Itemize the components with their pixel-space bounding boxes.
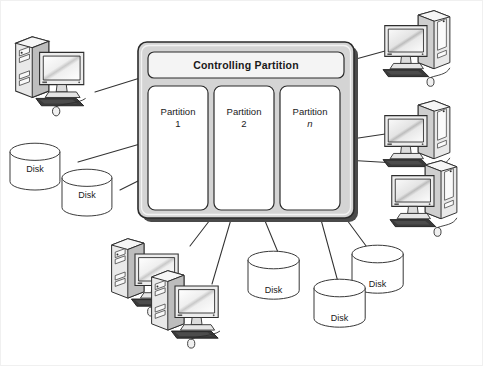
connector-disk-bottom-right-front	[320, 216, 338, 282]
disk-bottom-right-front[interactable]	[314, 279, 365, 327]
partition-panel-2[interactable]	[214, 86, 274, 210]
disk-bottom-center[interactable]	[248, 251, 299, 299]
controlling-partition-panel[interactable]	[148, 52, 344, 78]
computer-right-top[interactable]	[383, 11, 450, 87]
connector-disk-left-front	[120, 180, 140, 190]
partition-panel-n[interactable]	[280, 86, 340, 210]
computer-bottom-front[interactable]	[152, 271, 220, 348]
partition-panel-1[interactable]	[148, 86, 208, 210]
connector-left-computer	[95, 78, 140, 92]
connector-disk-left-back	[78, 144, 140, 162]
partition-panels	[148, 86, 340, 210]
computer-left[interactable]	[16, 37, 86, 116]
disk-upper-left-front[interactable]	[62, 169, 112, 216]
diagram-canvas: Controlling Partition Partition 1 Partit…	[0, 0, 483, 366]
disk-upper-left-back[interactable]	[10, 143, 60, 190]
diagram-svg	[0, 0, 483, 366]
computer-right-bottom[interactable]	[390, 161, 457, 237]
connector-bottom-computer-front	[212, 216, 232, 284]
